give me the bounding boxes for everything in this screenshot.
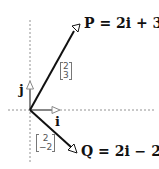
vector-q-component-y: −2 bbox=[39, 143, 52, 152]
vector-p-component-y: 3 bbox=[63, 71, 69, 80]
vector-q-equation: Q = 2i − 2j bbox=[81, 143, 159, 159]
vector-p-equation: P = 2i + 3j bbox=[84, 15, 159, 31]
vector-p-arrow bbox=[30, 24, 80, 110]
basis-vector-i bbox=[30, 107, 60, 114]
vector-p-column: 2 3 bbox=[60, 62, 72, 80]
basis-i-label: i bbox=[55, 114, 60, 129]
vector-q-column: 2 −2 bbox=[36, 134, 55, 152]
basis-j-label: j bbox=[19, 82, 24, 97]
